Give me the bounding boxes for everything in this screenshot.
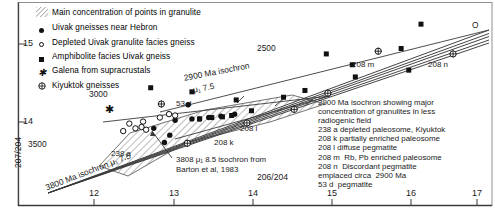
data-point — [140, 119, 145, 124]
data-point — [133, 126, 138, 131]
data-point — [197, 116, 202, 121]
isochron-figure: ✱ Main concentration of points in granul… — [0, 0, 495, 220]
key-block: 2900 Ma isochron showing major concentra… — [318, 98, 445, 189]
data-point — [353, 74, 358, 79]
data-point — [324, 51, 329, 56]
data-point — [184, 140, 191, 147]
data-point — [249, 108, 254, 113]
data-point — [291, 106, 298, 113]
key-line-9: 53 d pegmatite — [318, 180, 445, 189]
y-tick-label-15: 15 — [23, 38, 33, 48]
data-point — [189, 116, 194, 121]
data-point — [121, 128, 126, 133]
point-label-238a: 238 a — [111, 149, 131, 158]
x-tick-label-15: 15 — [327, 188, 337, 198]
y-tick-label-14: 14 — [23, 116, 33, 126]
legend-hatch-label: Main concentration of points in granulit… — [52, 8, 201, 17]
data-point — [127, 121, 132, 126]
data-point — [399, 46, 404, 51]
point-label-208k: 208 k — [214, 138, 234, 147]
crossed-circle-icon — [36, 76, 47, 94]
data-point — [324, 90, 331, 97]
point-label-208n: 208 n — [428, 60, 448, 69]
data-point — [166, 111, 171, 116]
key-line-7: 208 n Discordant pegmatite — [318, 162, 445, 171]
data-point — [148, 85, 153, 90]
key-line-0: 2900 Ma isochron showing major — [318, 98, 445, 107]
barton-note-line2: Barton et al, 1983 — [176, 165, 238, 174]
ref-label-3000: 3000 — [89, 89, 108, 99]
data-point: ✱ — [105, 103, 114, 115]
data-point — [143, 127, 148, 132]
key-line-1: concentration of granulites in less — [318, 107, 445, 116]
x-axis-title: 206/204 — [257, 172, 288, 182]
key-line-6: 208 m Rb, Pb enriched paleosome — [318, 153, 445, 162]
data-point — [449, 50, 456, 57]
data-point — [162, 140, 167, 145]
barton-note-line1: 3808 μ₁ 8.5 isochron from — [176, 155, 266, 164]
point-label-208l: 208 l — [240, 124, 257, 133]
data-point — [418, 22, 423, 27]
y-axis-title: 207/204 — [13, 137, 23, 168]
key-line-3: 238 a depleted paleosome, Kiyuktok — [318, 125, 445, 134]
legend-label-depleted-granulite: Depleted Uivak granulite facies gneiss — [52, 38, 195, 47]
key-line-8: emplaced circa 2900 Ma — [318, 171, 445, 180]
key-line-5: 208 l diffuse pegmatite — [318, 143, 445, 152]
origin-label-O: O — [472, 20, 479, 30]
x-tick-label-12: 12 — [89, 188, 99, 198]
data-point — [167, 132, 172, 137]
x-tick-label-17: 17 — [472, 188, 482, 198]
key-line-2: radiogenic field — [318, 116, 445, 125]
ref-label-2500: 2500 — [257, 43, 276, 53]
data-point — [281, 95, 286, 100]
legend-label-kiyuktok: Kiyuktok gneisses — [52, 81, 119, 90]
legend-label-amphibolite: Amphibolite facies Uivak gneiss — [52, 52, 170, 61]
x-tick-label-14: 14 — [248, 188, 258, 198]
ref-label-3500: 3500 — [28, 139, 47, 149]
x-tick-marks — [94, 199, 477, 206]
y-tick-marks — [19, 44, 26, 122]
data-point — [375, 48, 382, 55]
point-label-53d: 53 d — [176, 99, 192, 108]
x-tick-label-16: 16 — [406, 188, 416, 198]
data-point — [302, 88, 307, 93]
data-point — [172, 113, 177, 118]
data-point — [158, 100, 165, 107]
data-point — [157, 115, 162, 120]
key-line-4: 208 k partially enriched paleosome — [318, 134, 445, 143]
x-tick-label-13: 13 — [169, 188, 179, 198]
legend-label-galena: Galena from supracrustals — [52, 66, 151, 75]
legend-label-uivak-hebron: Uivak gneisses near Hebron — [52, 23, 157, 32]
data-point — [209, 115, 214, 120]
data-point — [406, 68, 411, 73]
point-label-208m: 208 m — [352, 60, 374, 69]
data-point — [234, 97, 239, 102]
data-point — [229, 113, 234, 118]
data-point — [220, 114, 225, 119]
data-point — [151, 126, 156, 131]
